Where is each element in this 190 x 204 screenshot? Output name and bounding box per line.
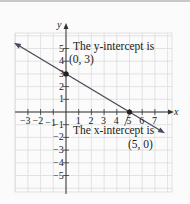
y-tick-label: 3 — [59, 69, 64, 79]
y-intercept-text: The y-intercept is — [73, 40, 154, 52]
y-tick-label: −5 — [53, 171, 64, 181]
y-axis-arrow-icon — [64, 23, 69, 29]
x-intercept-value-label: (5, 0) — [128, 139, 153, 151]
line-arrow-right-icon — [158, 127, 165, 133]
y-tick-label: 2 — [59, 82, 64, 92]
intercept-point — [63, 71, 68, 76]
y-tick-label: −2 — [53, 132, 64, 142]
y-intercept-annotation: The y-intercept is — [73, 41, 154, 53]
y-axis-label: y — [57, 20, 61, 30]
x-tick-label: −3 — [20, 116, 31, 126]
y-tick-label: −1 — [53, 120, 64, 130]
y-tick-label: 5 — [59, 44, 64, 54]
y-tick-label: 1 — [59, 94, 64, 104]
y-intercept-value-label: (0, 3) — [69, 54, 94, 66]
y-intercept-value: (0, 3) — [69, 53, 94, 65]
y-tick-label: 4 — [59, 56, 64, 66]
y-tick-label: −4 — [53, 158, 64, 168]
x-intercept-value: (5, 0) — [128, 138, 153, 150]
x-axis-label: x — [174, 107, 178, 117]
intercept-point — [127, 109, 132, 114]
coordinate-plane — [0, 0, 190, 204]
y-tick-label: −3 — [53, 145, 64, 155]
x-intercept-text: The x-intercept is — [73, 124, 154, 136]
x-intercept-annotation: The x-intercept is — [73, 125, 154, 137]
x-tick-label: −2 — [33, 116, 44, 126]
